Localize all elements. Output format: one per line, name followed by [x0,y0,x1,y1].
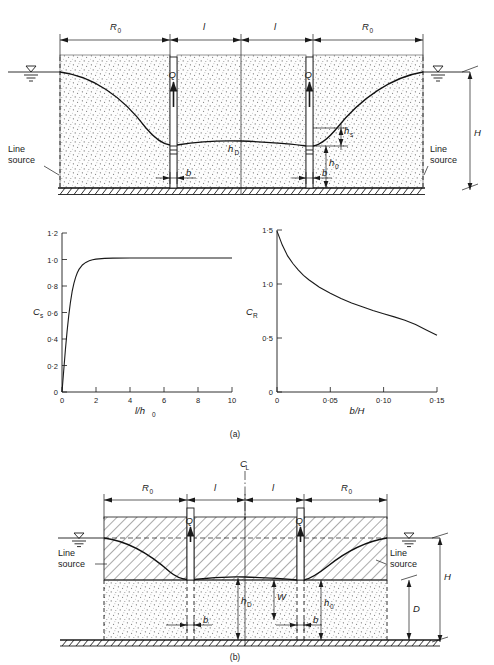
dim-H-a: H [462,66,481,190]
chart2-xtick-1: 0·05 [323,396,338,405]
dim-h0-a-label: h [329,157,334,168]
dim-b-right-b-label: b [313,614,318,625]
well-right-b-discharge-label: Q [296,515,304,526]
dim-b-left-a-label: b [186,167,191,178]
well-left-b: Q [186,508,195,580]
dim-h0-b-sub: 0 [330,603,334,610]
line-source-label-right-a: Line source [424,144,457,175]
chart2-y-ticklabels: 0 0·5 1·0 1·5 [262,226,273,397]
dim-b-3-label: R [341,482,348,493]
line-source-left-a-line2: source [8,155,35,165]
panel-a-section: R 0 l l R 0 [8,21,481,195]
chart2-ytick-1: 0·5 [262,334,273,343]
chart1-xtick-1: 2 [94,396,98,405]
dim-b-0-sub: 0 [150,488,154,495]
impervious-base-b [60,640,440,646]
chart2-x-axis-label: b/H [350,405,365,416]
line-source-right-a-line2: source [430,155,457,165]
chart1-curve [62,258,232,392]
chart1-ytick-2: 0·4 [47,335,58,344]
chart-cs-vs-l-over-h0: 0 0·2 0·4 0·6 0·8 1·0 1·2 0 2 4 6 8 10 [33,229,236,418]
chart1-x-ticklabels: 0 2 4 6 8 10 [60,396,236,405]
line-source-label-left-b: Line source [58,548,107,569]
line-source-label-left-a: Line source [8,144,59,175]
chart1-ytick-4: 0·8 [47,282,58,291]
dim-label-b-R0-right: R 0 [341,482,353,495]
chart2-ytick-0: 0 [269,388,273,397]
dim-hD-a-sub: D [235,149,240,156]
chart2-xtick-0: 0 [275,396,279,405]
water-table-symbol-left-b [72,533,86,547]
figure-root: R 0 l l R 0 [0,0,494,665]
panel-b-section: C L R 0 l l R [58,458,451,646]
dim-b-2-label: l [272,482,275,493]
chart1-xtick-4: 8 [196,396,200,405]
well-right-b: Q [296,508,305,580]
dimension-chain-top-a: R 0 l l R 0 [60,21,423,57]
dim-b-right-a-label: b [322,167,327,178]
dim-D-b: D [401,575,420,640]
dim-hD-b-label: h [241,595,246,606]
dim-H-a-label: H [474,127,481,138]
water-table-symbol-right-a [431,66,445,81]
dim-b-1-label: l [214,482,217,493]
chart2-xtick-3: 0·15 [429,396,444,405]
chart2-x-ticks [277,387,437,392]
figure-svg: R 0 l l R 0 [0,0,494,665]
line-source-left-b-line1: Line [58,548,75,558]
dim-a-3-sub: 0 [370,27,374,34]
chart1-y-axis-label: C s [33,306,44,319]
dim-b-left-b-label: b [203,614,208,625]
water-table-symbol-left-a [24,66,38,81]
chart2-xlabel: b/H [350,405,365,416]
well-right-a: Q [305,57,314,188]
chart1-ytick-1: 0·2 [47,362,58,371]
dim-hD-b-sub: D [247,601,252,608]
chart2-curve [277,231,437,335]
dim-a-0-sub: 0 [118,27,122,34]
chart2-ylabel: C [246,306,253,317]
well-left-b-discharge-label: Q [186,515,194,526]
chart1-xtick-2: 4 [128,396,132,405]
dim-a-1-label: l [203,21,206,32]
well-left-a: Q [169,57,178,188]
caption-b: (b) [230,652,241,662]
dim-b-3-sub: 0 [349,488,353,495]
chart1-x-axis-label: l/h 0 [135,405,156,418]
line-source-left-b-line2: source [58,559,85,569]
well-left-a-discharge-label: Q [169,69,177,80]
upper-stratum-b [104,517,387,580]
chart2-ytick-3: 1·5 [262,226,273,235]
chart1-y-ticks [62,233,67,392]
dim-hs-a-label: h [344,125,349,136]
chart1-xtick-0: 0 [60,396,64,405]
dim-label-a-R0-right: R 0 [362,21,374,34]
caption-a: (a) [230,429,241,439]
dim-D-b-label: D [413,603,420,614]
dim-H-b: H [432,533,451,642]
dimension-chain-top-b: R 0 l l R 0 [104,482,387,519]
centerline-symbol-sub-b: L [246,464,250,471]
chart1-ytick-0: 0 [54,388,58,397]
water-table-symbol-right-b [402,533,416,547]
chart1-ytick-3: 0·6 [47,309,58,318]
aquifer-body [60,55,423,188]
dim-label-a-R0-left: R 0 [110,21,122,34]
dim-a-0-label: R [110,21,117,32]
chart1-xtick-5: 10 [228,396,236,405]
lower-stratum-b [104,580,387,640]
line-source-left-a-line1: Line [8,144,25,154]
chart1-ytick-5: 1·0 [47,256,58,265]
impervious-base [58,188,425,195]
chart2-ylabel-sub: R [253,312,258,319]
chart1-y-ticklabels: 0 0·2 0·4 0·6 0·8 1·0 1·2 [47,229,58,397]
dim-hD-a-label: h [228,143,233,154]
dim-b-0-label: R [142,482,149,493]
chart2-y-axis-label: C R [246,306,258,319]
line-source-right-b-line1: Line [390,548,407,558]
dim-h0-a-sub: 0 [335,163,339,170]
chart1-xlabel-sub: 0 [152,411,156,418]
dim-a-3-label: R [362,21,369,32]
chart2-xtick-2: 0·10 [376,396,391,405]
chart1-ylabel-sub: s [40,312,44,319]
